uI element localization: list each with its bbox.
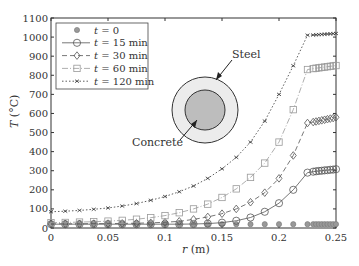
y-tick-label: 800 xyxy=(29,70,48,81)
chart-canvas: 00.050.10.150.20.25010020030040050060070… xyxy=(0,0,359,266)
y-axis-label: T (°C) xyxy=(8,95,21,128)
y-tick-label: 100 xyxy=(29,203,48,214)
x-tick-label: 0.25 xyxy=(325,232,347,243)
y-tick-label: 700 xyxy=(29,89,48,100)
cross-section-diagram: Steel Concrete xyxy=(132,48,261,149)
legend-label: t = 30 min xyxy=(94,50,148,61)
y-tick-label: 1000 xyxy=(23,32,48,43)
x-tick-label: 0.15 xyxy=(211,232,233,243)
y-tick-label: 600 xyxy=(29,108,48,119)
y-tick-label: 1100 xyxy=(23,13,48,24)
x-tick-label: 0.1 xyxy=(157,232,173,243)
x-tick-label: 0.2 xyxy=(271,232,287,243)
concrete-label: Concrete xyxy=(132,136,183,149)
y-tick-label: 500 xyxy=(29,127,48,138)
y-tick-label: 400 xyxy=(29,146,48,157)
x-tick-label: 0 xyxy=(48,232,54,243)
x-axis-label: r (m) xyxy=(182,243,210,256)
y-tick-label: 300 xyxy=(29,165,48,176)
x-tick-label: 0.05 xyxy=(97,232,119,243)
legend-label: t = 0 xyxy=(94,25,119,36)
legend-label: t = 15 min xyxy=(94,37,148,48)
temperature-profile-chart: 00.050.10.150.20.25010020030040050060070… xyxy=(0,0,359,266)
legend-label: t = 60 min xyxy=(94,63,148,74)
legend-label: t = 120 min xyxy=(94,76,155,87)
y-tick-label: 900 xyxy=(29,51,48,62)
steel-label: Steel xyxy=(232,48,261,61)
legend: t = 0t = 15 mint = 30 mint = 60 mint = 1… xyxy=(56,23,155,89)
y-tick-label: 200 xyxy=(29,184,48,195)
